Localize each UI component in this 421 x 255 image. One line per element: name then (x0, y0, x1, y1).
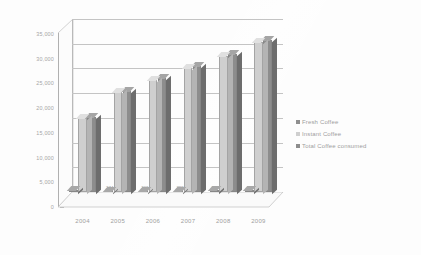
bar-side (192, 66, 197, 195)
bar-side (272, 38, 277, 194)
x-axis-tick-label: 2004 (75, 218, 90, 224)
bar-side (122, 90, 127, 194)
bar-fresh-coffee[interactable] (105, 191, 114, 192)
bar-fresh-coffee[interactable] (175, 191, 184, 192)
bar-face (184, 68, 193, 192)
y-axis-tick-label: 20,000 (36, 105, 54, 111)
bar-group (175, 19, 202, 192)
bar-group (210, 19, 237, 192)
y-axis-tick-label: 15,000 (36, 130, 54, 136)
bar-side (96, 115, 101, 195)
y-axis-tick-label: 10,000 (36, 155, 54, 161)
bar-group (69, 19, 96, 192)
bar-instant-coffee[interactable] (149, 80, 158, 192)
bar-instant-coffee[interactable] (78, 118, 87, 192)
bar-side (166, 76, 171, 194)
legend-label: Instant Coffee (302, 131, 341, 137)
bar-group (140, 19, 167, 192)
bar-side (263, 40, 268, 194)
bar-instant-coffee[interactable] (114, 92, 123, 192)
bar-fresh-coffee[interactable] (69, 190, 78, 192)
legend-marker-icon (296, 120, 300, 124)
bar-face (114, 92, 123, 192)
y-axis-tick-label: 30,000 (36, 56, 54, 62)
bar-face (254, 42, 263, 192)
bar-instant-coffee[interactable] (219, 56, 228, 192)
bar-group (105, 19, 132, 192)
chart-legend: Fresh Coffee Instant Coffee Total Coffee… (296, 116, 406, 152)
x-axis-tick-label: 2006 (146, 218, 161, 224)
x-axis-tick-label: 2009 (251, 218, 266, 224)
legend-item-total-coffee-consumed[interactable]: Total Coffee consumed (296, 140, 406, 152)
legend-marker-icon (296, 144, 300, 148)
legend-label: Total Coffee consumed (302, 143, 366, 149)
y-axis-labels: 05,00010,00015,00020,00025,00030,00035,0… (6, 19, 54, 207)
bar-face (219, 56, 228, 192)
bar-face (78, 118, 87, 192)
bar-face (149, 80, 158, 192)
legend-label: Fresh Coffee (302, 119, 338, 125)
bar-side (157, 78, 162, 195)
bar-side (228, 53, 233, 194)
bar-side (237, 52, 242, 194)
x-axis-tick-label: 2007 (181, 218, 196, 224)
bar-fresh-coffee[interactable] (245, 190, 254, 192)
y-axis-tick-label: 5,000 (40, 179, 55, 185)
bar-instant-coffee[interactable] (184, 68, 193, 192)
legend-item-fresh-coffee[interactable]: Fresh Coffee (296, 116, 406, 128)
y-axis-tick-label: 0 (51, 204, 54, 210)
y-axis-tick-label: 35,000 (36, 31, 54, 37)
bar-series-container: 307274263299321344 (58, 19, 283, 207)
plot-area: 307274263299321344 (58, 19, 283, 207)
x-axis-tick-label: 2005 (110, 218, 125, 224)
legend-item-instant-coffee[interactable]: Instant Coffee (296, 128, 406, 140)
bar-side (87, 116, 92, 194)
x-axis-labels: 200420052006200720082009 (58, 218, 286, 230)
legend-marker-icon (296, 132, 300, 136)
x-axis-tick-label: 2008 (216, 218, 231, 224)
bar-fresh-coffee[interactable] (210, 190, 219, 192)
bar-side (131, 88, 136, 194)
y-axis-tick-label: 25,000 (36, 80, 54, 86)
bar-instant-coffee[interactable] (254, 42, 263, 192)
bar-fresh-coffee[interactable] (140, 191, 149, 192)
bar-side (201, 64, 206, 194)
chart-canvas: 05,00010,00015,00020,00025,00030,00035,0… (0, 0, 421, 255)
bar-group (245, 19, 272, 192)
